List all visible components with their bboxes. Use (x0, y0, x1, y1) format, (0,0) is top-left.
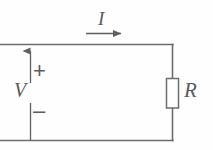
negative-polarity-sign: – (33, 100, 45, 122)
voltage-label: V (14, 80, 26, 100)
circuit-diagram-canvas: I V R + – (0, 0, 213, 150)
current-label: I (98, 9, 104, 28)
resistor-body (167, 79, 179, 109)
positive-polarity-sign: + (33, 60, 46, 82)
resistance-label: R (184, 80, 197, 101)
wire-group (1, 45, 174, 141)
circuit-schematic-svg (0, 0, 213, 150)
